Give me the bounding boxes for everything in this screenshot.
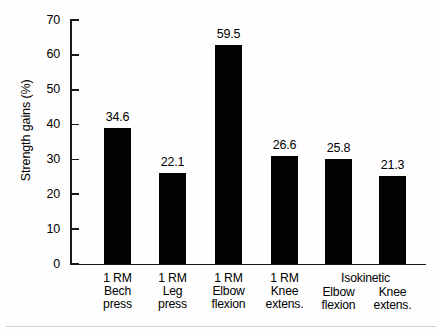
y-axis-tick-label: 10: [20, 223, 60, 236]
scan-artifact-rule: [6, 326, 436, 327]
bar: [104, 128, 131, 264]
y-axis-tick-label: 40: [20, 118, 60, 131]
y-axis-tick-label: 50: [20, 83, 60, 96]
bar-value-label: 59.5: [209, 28, 249, 41]
bar-value-label: 21.3: [373, 159, 413, 172]
bar: [379, 176, 406, 264]
bar: [325, 159, 352, 264]
bar-value-label: 22.1: [153, 156, 193, 169]
y-axis-tick-label: 0: [20, 258, 60, 271]
y-axis-tick-label: 70: [20, 14, 60, 27]
y-axis-tick-label: 20: [20, 188, 60, 201]
plot-area: 34.622.159.526.625.821.3: [71, 20, 425, 264]
bar: [215, 45, 242, 264]
bar: [159, 173, 186, 264]
y-axis-tick-label: 30: [20, 153, 60, 166]
x-axis-category-line: extens.: [358, 299, 428, 312]
bar-value-label: 34.6: [98, 111, 138, 124]
bar: [271, 156, 298, 264]
bar-chart-figure: Strength gains (%) 010203040506070 34.62…: [0, 0, 441, 333]
x-axis-group-header: Isokinetic: [316, 272, 416, 285]
x-axis-category-label: Kneeextens.: [358, 286, 428, 312]
bar-value-label: 26.6: [265, 139, 305, 152]
bar-value-label: 25.8: [319, 142, 359, 155]
y-axis-tick-label: 60: [20, 48, 60, 61]
